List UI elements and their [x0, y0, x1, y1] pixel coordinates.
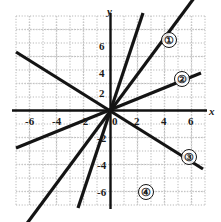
- coordinate-graph: -6 -4 -2 0 2 4 6 6 4 2 -2 -4 -6 y x ① ② …: [0, 0, 221, 222]
- x-tick-label--4: -4: [52, 116, 61, 127]
- y-tick-label--2: -2: [97, 133, 106, 144]
- x-tick-label--2: -2: [79, 116, 88, 127]
- x-tick-label-0: 0: [112, 116, 118, 127]
- x-tick-label-6: 6: [188, 116, 194, 127]
- x-tick-label-4: 4: [161, 116, 167, 127]
- callout-line-4: ④: [138, 184, 154, 200]
- y-tick-label--4: -4: [97, 160, 106, 171]
- x-tick-label--6: -6: [25, 116, 34, 127]
- y-tick-label-6: 6: [99, 41, 105, 52]
- x-tick-label-2: 2: [134, 116, 140, 127]
- callout-line-1: ①: [161, 32, 177, 48]
- callout-line-3: ③: [181, 149, 197, 165]
- graph-canvas: [0, 0, 221, 222]
- y-tick-label-2: 2: [99, 88, 105, 99]
- y-tick-label-4: 4: [99, 68, 105, 79]
- y-axis-label: y: [107, 6, 112, 17]
- callout-line-2: ②: [174, 71, 190, 87]
- x-axis-label: x: [209, 106, 215, 117]
- y-tick-label--6: -6: [97, 187, 106, 198]
